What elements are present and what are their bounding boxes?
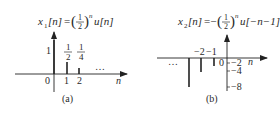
value-label-a-n1-num: 1 <box>66 42 71 52</box>
formula-a: x 1 [n] = ( 1 2 ) n u[n] <box>37 12 114 31</box>
formula-a-arg: [n] <box>48 15 62 27</box>
y-tick-b-m4: −4 <box>231 65 242 76</box>
formula-a-eq: = <box>64 15 70 27</box>
formula-a-lparen: ( <box>71 13 76 30</box>
axis-label-a: n <box>116 75 121 86</box>
panel-a: x 1 [n] = ( 1 2 ) n u[n] 1 1 2 1 4 … 0 <box>15 12 127 105</box>
x-tick-a-2: 2 <box>77 75 82 86</box>
formula-b: x 2 [n] =− ( 1 2 ) n u[−n−1] <box>177 12 280 31</box>
formula-a-lhs: x <box>37 15 43 27</box>
formula-b-arg: [n] <box>188 15 202 27</box>
formula-b-exp: n <box>235 12 239 20</box>
formula-b-lhs: x <box>177 15 183 27</box>
panel-b: x 2 [n] =− ( 1 2 ) n u[−n−1] −2 −1 … 0 <box>157 12 280 105</box>
formula-b-lparen: ( <box>217 13 222 30</box>
ellipsis-b: … <box>168 56 178 67</box>
caption-b: (b) <box>206 93 218 105</box>
y-tick-b-m8: −8 <box>231 81 242 92</box>
axis-label-b: n <box>248 56 253 67</box>
formula-a-tail: u[n] <box>94 15 114 27</box>
x-tick-b-m2: −2 <box>194 46 205 57</box>
formula-b-tail: u[−n−1] <box>240 15 280 27</box>
formula-a-exp: n <box>89 12 93 20</box>
origin-label-a: 0 <box>45 75 50 86</box>
origin-label-b: 0 <box>219 57 224 68</box>
value-label-a-n2-num: 1 <box>79 42 84 52</box>
formula-b-frac-num: 1 <box>224 13 228 22</box>
x-tick-a-1: 1 <box>64 75 69 86</box>
ellipsis-a: … <box>95 61 105 72</box>
formula-b-eq: =− <box>204 15 216 27</box>
value-label-a-n1-den: 2 <box>66 52 71 62</box>
formula-b-frac-den: 2 <box>224 22 228 31</box>
x-tick-b-m1: −1 <box>206 46 217 57</box>
value-label-a-n0: 1 <box>46 45 51 56</box>
signal-diagrams: x 1 [n] = ( 1 2 ) n u[n] 1 1 2 1 4 … 0 <box>0 0 280 116</box>
formula-a-frac-den: 2 <box>78 22 82 31</box>
caption-a: (a) <box>62 93 73 105</box>
value-label-a-n2-den: 4 <box>79 52 84 62</box>
formula-a-frac-num: 1 <box>78 13 82 22</box>
